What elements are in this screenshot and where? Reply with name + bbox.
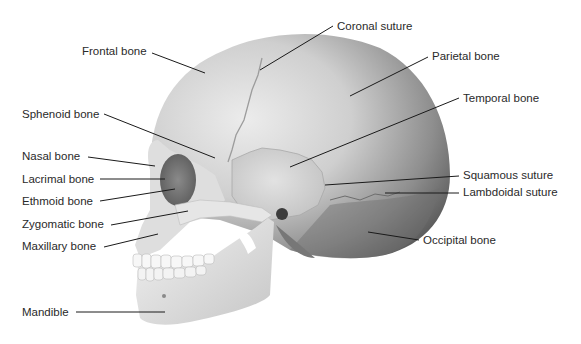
orbit bbox=[160, 154, 196, 206]
label-nasal: Nasal bone bbox=[22, 150, 80, 163]
ear-canal bbox=[276, 208, 288, 220]
label-squamous: Squamous suture bbox=[463, 169, 553, 182]
label-mandible: Mandible bbox=[22, 306, 69, 319]
label-parietal: Parietal bone bbox=[432, 50, 500, 63]
label-maxillary: Maxillary bone bbox=[22, 240, 96, 253]
mental-foramen bbox=[162, 294, 166, 298]
label-lambdoidal: Lambdoidal suture bbox=[463, 186, 558, 199]
leader-line-frontal bbox=[152, 53, 205, 73]
label-zygomatic: Zygomatic bone bbox=[22, 218, 104, 231]
label-ethmoid: Ethmoid bone bbox=[22, 195, 93, 208]
label-temporal: Temporal bone bbox=[463, 92, 539, 105]
label-occipital: Occipital bone bbox=[423, 234, 496, 247]
label-sphenoid: Sphenoid bone bbox=[22, 108, 99, 121]
label-frontal: Frontal bone bbox=[82, 45, 147, 58]
label-lacrimal: Lacrimal bone bbox=[22, 173, 94, 186]
skull-diagram: Frontal boneCoronal sutureParietal boneT… bbox=[0, 0, 581, 344]
leader-line-nasal bbox=[88, 157, 155, 166]
label-coronal: Coronal suture bbox=[337, 20, 412, 33]
